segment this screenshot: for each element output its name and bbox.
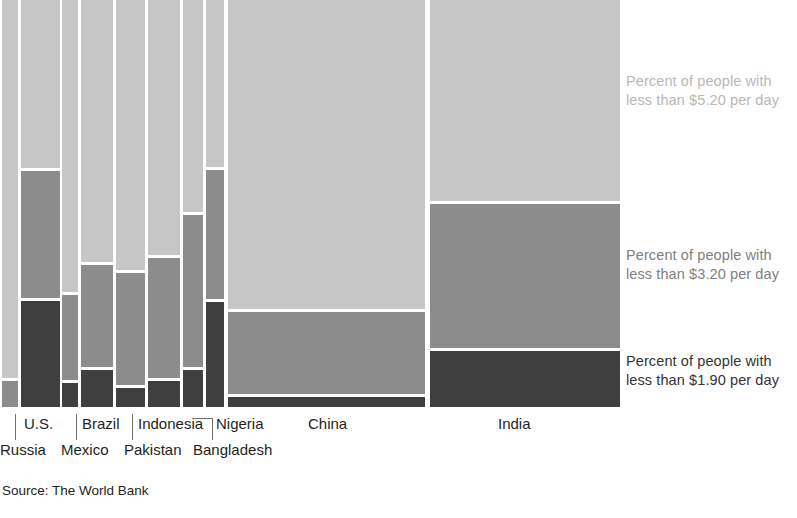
segment-under-3-20 [148, 258, 180, 378]
segment-under-1-90 [21, 301, 60, 407]
mosaic-column-china [228, 0, 425, 410]
segment-under-3-20 [116, 273, 145, 385]
category-label-china: China [308, 414, 347, 434]
legend-entry-line-2: less than $3.20 per day [626, 265, 779, 284]
segment-under-3-20 [183, 215, 203, 367]
segment-under-1-90 [62, 383, 78, 407]
leader-line-vertical-2 [132, 414, 133, 440]
category-label-nigeria: Nigeria [216, 414, 264, 434]
segment-under-3-20 [228, 312, 425, 394]
mosaic-column-mexico [62, 0, 78, 410]
segment-under-3-20 [81, 265, 113, 367]
segment-under-1-90 [206, 302, 224, 407]
category-label-bangladesh: Bangladesh [193, 440, 272, 460]
segment-under-3-20 [430, 204, 620, 348]
segment-under-3-20 [62, 295, 78, 380]
mosaic-column-brazil [81, 0, 113, 410]
segment-under-1-90 [116, 388, 145, 407]
mosaic-column-india [430, 0, 620, 410]
legend-entry-under-1-90: Percent of people withless than $1.90 pe… [626, 352, 779, 390]
marimekko-chart: U.S.BrazilIndonesiaNigeriaChinaIndia Rus… [0, 0, 797, 518]
segment-under-5-20 [148, 0, 180, 255]
segment-under-5-20 [62, 0, 78, 292]
category-label-indonesia: Indonesia [138, 414, 203, 434]
category-labels-bottom-row: RussiaMexicoPakistanBangladesh [0, 440, 620, 464]
segment-under-5-20 [2, 0, 18, 378]
segment-under-3-20 [21, 171, 60, 298]
mosaic-column-pakistan [116, 0, 145, 410]
mosaic-column-nigeria [206, 0, 224, 410]
leader-line-horizontal-4 [193, 418, 213, 419]
segment-under-5-20 [81, 0, 113, 262]
segment-under-5-20 [21, 0, 60, 168]
segment-under-1-90 [228, 397, 425, 407]
segment-under-5-20 [430, 0, 620, 201]
segment-under-5-20 [183, 0, 203, 212]
category-label-mexico: Mexico [61, 440, 109, 460]
category-label-india: India [498, 414, 531, 434]
legend-entry-line-2: less than $5.20 per day [626, 91, 779, 110]
segment-under-3-20 [206, 170, 224, 299]
mosaic-column-bangladesh [183, 0, 203, 410]
segment-under-1-90 [81, 370, 113, 407]
legend-entry-line-2: less than $1.90 per day [626, 371, 779, 390]
segment-under-5-20 [228, 0, 425, 309]
mosaic-column-indonesia [148, 0, 180, 410]
plot-area [0, 0, 620, 410]
mosaic-column-u-s [21, 0, 60, 410]
legend-entry-line-1: Percent of people with [626, 352, 779, 371]
mosaic-column-russia [2, 0, 18, 410]
segment-under-1-90 [148, 381, 180, 407]
leader-line-vertical-3 [212, 418, 213, 440]
category-label-brazil: Brazil [82, 414, 120, 434]
segment-under-3-20 [2, 381, 18, 407]
legend-entry-under-5-20: Percent of people withless than $5.20 pe… [626, 72, 779, 110]
segment-under-1-90 [183, 370, 203, 407]
category-label-pakistan: Pakistan [124, 440, 182, 460]
leader-line-vertical-1 [76, 414, 77, 440]
segment-under-1-90 [430, 351, 620, 407]
segment-under-5-20 [116, 0, 145, 270]
category-label-russia: Russia [0, 440, 46, 460]
segment-under-5-20 [206, 0, 224, 167]
legend-entry-line-1: Percent of people with [626, 72, 779, 91]
leader-line-vertical-0 [15, 414, 16, 440]
source-note: Source: The World Bank [2, 482, 149, 500]
legend-entry-line-1: Percent of people with [626, 246, 779, 265]
category-label-u-s: U.S. [24, 414, 53, 434]
category-labels-top-row: U.S.BrazilIndonesiaNigeriaChinaIndia [0, 414, 620, 438]
legend-entry-under-3-20: Percent of people withless than $3.20 pe… [626, 246, 779, 284]
